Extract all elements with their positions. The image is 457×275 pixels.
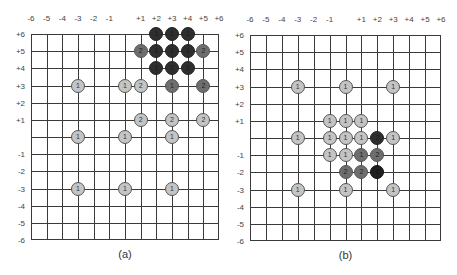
x-axis-label: -5 <box>43 14 50 23</box>
y-axis-label: -6 <box>224 237 244 246</box>
stone-dark: 1 <box>149 27 163 41</box>
x-axis-label: -5 <box>262 15 269 24</box>
y-axis-label: -3 <box>224 185 244 194</box>
stone-light: 1 <box>386 131 400 145</box>
x-axis-label: -2 <box>90 14 97 23</box>
y-axis-label: +1 <box>5 115 25 124</box>
x-axis-label: +2 <box>152 14 161 23</box>
x-axis-label: +5 <box>199 14 208 23</box>
stone-light: 1 <box>71 130 85 144</box>
stone-medium: 2 <box>196 79 210 93</box>
stone-dark: 1 <box>149 61 163 75</box>
stone-light: 1 <box>339 114 353 128</box>
y-axis-label: -1 <box>5 150 25 159</box>
stone-light: 1 <box>291 80 305 94</box>
x-axis-label: +3 <box>389 15 398 24</box>
stone-dark: 2 <box>165 61 179 75</box>
x-axis-label: -3 <box>74 14 81 23</box>
grid-line-vertical <box>425 36 426 240</box>
stone-medium: 1 <box>354 148 368 162</box>
grid-line-horizontal <box>32 171 218 172</box>
y-axis-label: -5 <box>224 219 244 228</box>
y-axis-label: -6 <box>5 236 25 245</box>
stone-light: 2 <box>196 113 210 127</box>
stone-light: 1 <box>118 130 132 144</box>
stone-light: 2 <box>134 79 148 93</box>
stone-medium: 2 <box>354 165 368 179</box>
grid-line-vertical <box>203 35 204 239</box>
stone-light: 1 <box>386 183 400 197</box>
x-axis-label: +4 <box>405 15 414 24</box>
stone-light: 1 <box>71 182 85 196</box>
stone-light: 1 <box>118 79 132 93</box>
grid-line-horizontal <box>32 154 218 155</box>
x-axis-label: +3 <box>167 14 176 23</box>
y-axis-label: +5 <box>224 48 244 57</box>
grid-line-vertical <box>141 35 142 239</box>
stone-light: 1 <box>323 114 337 128</box>
stone-light: 1 <box>291 131 305 145</box>
grid-line-vertical <box>409 36 410 240</box>
stone-light: 1 <box>71 79 85 93</box>
stone-light: 1 <box>165 182 179 196</box>
stone-medium: 2 <box>370 148 384 162</box>
x-axis-label: +6 <box>214 14 223 23</box>
stone-dark: 1 <box>181 27 195 41</box>
y-axis-label: -5 <box>5 218 25 227</box>
x-axis-label: +6 <box>436 15 445 24</box>
x-axis-label: -4 <box>59 14 66 23</box>
stone-medium: 2 <box>339 165 353 179</box>
stone-light: 1 <box>291 183 305 197</box>
stone-medium: 1 <box>165 79 179 93</box>
stone-dark: 2 <box>370 131 384 145</box>
y-axis-label: -1 <box>224 151 244 160</box>
x-axis-label: +2 <box>373 15 382 24</box>
stone-dark: 1 <box>165 44 179 58</box>
stone-light: 2 <box>165 113 179 127</box>
stone-medium: 2 <box>134 44 148 58</box>
panel-caption: (b) <box>339 249 352 261</box>
stone-light: 1 <box>323 148 337 162</box>
x-axis-label: -1 <box>326 15 333 24</box>
y-axis-label: +6 <box>5 30 25 39</box>
y-axis-label: +6 <box>224 31 244 40</box>
y-axis-label: -4 <box>224 202 244 211</box>
stone-light: 1 <box>339 131 353 145</box>
x-axis-label: +1 <box>136 14 145 23</box>
stone-light: 1 <box>165 130 179 144</box>
y-axis-label: -2 <box>224 168 244 177</box>
y-axis-label: +3 <box>5 81 25 90</box>
panel-caption: (a) <box>118 248 131 260</box>
grid-line-horizontal <box>32 223 218 224</box>
stone-light: 1 <box>386 80 400 94</box>
grid-line-horizontal <box>251 224 440 225</box>
x-axis-label: -1 <box>106 14 113 23</box>
x-axis-label: +5 <box>421 15 430 24</box>
stone-dark: 1 <box>165 27 179 41</box>
y-axis-label: +3 <box>224 82 244 91</box>
y-axis-label: +2 <box>5 98 25 107</box>
grid-line-horizontal <box>251 207 440 208</box>
y-axis-label: +2 <box>224 99 244 108</box>
stone-dark: 1 <box>149 44 163 58</box>
stone-dark: 1 <box>181 44 195 58</box>
stone-light: 1 <box>339 183 353 197</box>
x-axis-label: +1 <box>357 15 366 24</box>
x-axis-label: -6 <box>246 15 253 24</box>
x-axis-label: -6 <box>27 14 34 23</box>
y-axis-label: -3 <box>5 184 25 193</box>
stone-medium: 2 <box>196 44 210 58</box>
y-axis-label: -4 <box>5 201 25 210</box>
y-axis-label: -2 <box>5 167 25 176</box>
stone-light: 1 <box>354 131 368 145</box>
grid-line-horizontal <box>32 206 218 207</box>
y-axis-label: +4 <box>224 65 244 74</box>
stone-light: 1 <box>354 114 368 128</box>
x-axis-label: -3 <box>294 15 301 24</box>
stone-light: 1 <box>323 131 337 145</box>
x-axis-label: -2 <box>310 15 317 24</box>
stone-light: 1 <box>118 182 132 196</box>
y-axis-label: +1 <box>224 116 244 125</box>
stone-darkest: 2 <box>370 165 384 179</box>
stone-light: 1 <box>339 148 353 162</box>
